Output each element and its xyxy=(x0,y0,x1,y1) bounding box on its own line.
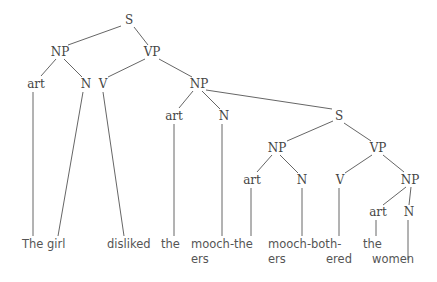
node-s-relative: S xyxy=(335,109,343,123)
leaf-mooch-the: mooch-the xyxy=(191,237,253,252)
leaf-ers-1: ers xyxy=(191,252,209,267)
node-np-subject: NP xyxy=(51,45,70,59)
node-np-relative-object: NP xyxy=(401,173,420,187)
leaf-ers-2: ers xyxy=(268,252,286,267)
leaf-disliked: disliked xyxy=(107,237,151,252)
node-s-root: S xyxy=(125,13,133,27)
leaf-mooch-both: mooch-both- xyxy=(268,237,341,252)
leaf-women: women xyxy=(372,252,414,267)
node-n-2: N xyxy=(219,109,230,123)
node-art-4: art xyxy=(369,205,387,219)
node-n-1: N xyxy=(81,77,92,91)
node-vp-relative: VP xyxy=(370,141,387,155)
node-v-1: V xyxy=(99,77,108,91)
node-np-relative: NP xyxy=(268,141,287,155)
leaf-ered: ered xyxy=(326,252,352,267)
leaf-the-2: the xyxy=(363,237,382,252)
leaf-the-girl: The girl xyxy=(22,237,65,252)
node-vp-main: VP xyxy=(144,45,161,59)
node-art-2: art xyxy=(165,109,183,123)
node-art-1: art xyxy=(27,77,45,91)
node-np-object: NP xyxy=(190,77,209,91)
node-n-3: N xyxy=(297,173,308,187)
leaf-the-1: the xyxy=(161,237,180,252)
node-art-3: art xyxy=(243,173,261,187)
node-v-3: V xyxy=(336,173,345,187)
node-n-4: N xyxy=(404,205,415,219)
